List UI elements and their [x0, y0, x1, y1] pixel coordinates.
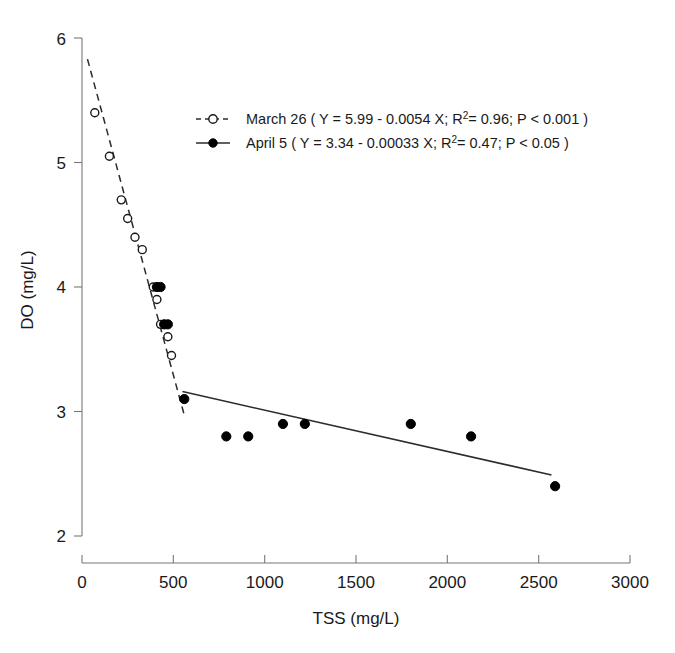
scatter-plot-svg: 6 5 4 3 2 DO (mg/L) 0 500 1000 1500 2000	[0, 0, 675, 653]
x-tick-label-1500: 1500	[337, 573, 375, 592]
data-point	[124, 215, 132, 223]
data-point	[180, 394, 189, 403]
y-tick-label-2: 2	[57, 527, 66, 546]
data-point	[244, 432, 253, 441]
data-point	[168, 351, 176, 359]
plot-background	[0, 0, 675, 653]
data-point	[156, 282, 165, 291]
data-point	[164, 333, 172, 341]
data-point	[117, 196, 125, 204]
data-point	[278, 419, 287, 428]
data-point	[466, 432, 475, 441]
y-tick-label-4: 4	[57, 278, 66, 297]
x-tick-label-2500: 2500	[520, 573, 558, 592]
x-axis-title: TSS (mg/L)	[313, 609, 400, 628]
data-point	[131, 233, 139, 241]
data-point	[406, 419, 415, 428]
chart-figure: 6 5 4 3 2 DO (mg/L) 0 500 1000 1500 2000	[0, 0, 675, 653]
legend-label-april-5: April 5 ( Y = 3.34 - 0.00033 X; R2= 0.47…	[246, 134, 569, 151]
data-point	[91, 109, 99, 117]
data-point	[300, 419, 309, 428]
x-tick-label-2000: 2000	[428, 573, 466, 592]
legend-label-march-26: March 26 ( Y = 5.99 - 0.0054 X; R2= 0.96…	[246, 110, 588, 127]
x-tick-label-0: 0	[77, 573, 86, 592]
data-point	[222, 432, 231, 441]
x-tick-label-3000: 3000	[611, 573, 649, 592]
y-tick-label-6: 6	[57, 30, 66, 49]
y-tick-label-3: 3	[57, 403, 66, 422]
data-point	[163, 320, 172, 329]
y-tick-label-5: 5	[57, 154, 66, 173]
legend-entry-march-26: March 26 ( Y = 5.99 - 0.0054 X; R2= 0.96…	[196, 110, 588, 127]
data-point	[551, 482, 560, 491]
legend-entry-april-5: April 5 ( Y = 3.34 - 0.00033 X; R2= 0.47…	[196, 134, 569, 151]
data-point	[153, 295, 161, 303]
y-axis-title: DO (mg/L)	[18, 250, 37, 329]
x-tick-label-500: 500	[159, 573, 187, 592]
data-point	[105, 152, 113, 160]
data-point	[138, 246, 146, 254]
x-tick-label-1000: 1000	[246, 573, 284, 592]
